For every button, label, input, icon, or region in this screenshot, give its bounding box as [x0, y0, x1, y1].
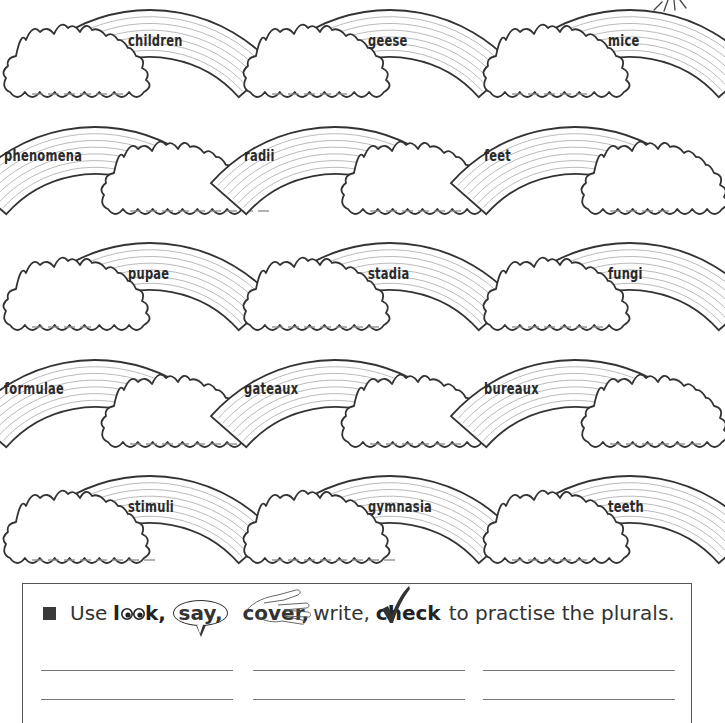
rainbow-cloud-left-icon [0, 466, 245, 581]
plural-card-gymnasia: gymnasia [240, 466, 485, 581]
svg-text:k,: k, [145, 603, 165, 625]
plural-word-label: fungi [608, 265, 643, 283]
answer-blank[interactable] [272, 78, 347, 96]
plural-card-stimuli: stimuli [0, 466, 245, 581]
plural-word-label: gateaux [244, 380, 298, 398]
eyes-icon: l k, [113, 603, 165, 625]
rainbow-cloud-left-icon [480, 0, 725, 115]
writing-line[interactable] [253, 670, 465, 671]
writing-line[interactable] [41, 699, 233, 700]
plural-card-pupae: pupae [0, 233, 245, 348]
answer-blank[interactable] [512, 544, 587, 562]
plural-word-label: stadia [368, 265, 409, 283]
rainbow-cloud-right-icon [0, 117, 245, 232]
answer-blank[interactable] [272, 544, 395, 562]
plural-card-gateaux: gateaux [240, 350, 485, 465]
rainbow-cloud-left-icon [480, 466, 725, 581]
plural-card-radii: radii [240, 117, 485, 232]
rainbow-cloud-left-icon [0, 233, 245, 348]
writing-line[interactable] [253, 699, 465, 700]
plural-card-formulae: formulae [0, 350, 245, 465]
rainbow-cloud-right-icon [480, 117, 725, 232]
answer-blank[interactable] [512, 311, 603, 329]
instruction-suffix: to practise the plurals. [449, 601, 675, 625]
answer-blank[interactable] [32, 544, 155, 562]
plural-word-label: teeth [608, 498, 644, 516]
plural-word-label: formulae [4, 380, 64, 398]
plural-card-teeth: teeth [480, 466, 725, 581]
instruction-text: Use look, l k, say, cover, [43, 600, 675, 626]
writing-line[interactable] [41, 670, 233, 671]
rainbow-cloud-right-icon [240, 117, 485, 232]
answer-blank[interactable] [370, 195, 461, 213]
answer-blank[interactable] [610, 195, 669, 213]
plural-card-feet: feet [480, 117, 725, 232]
answer-blank[interactable] [130, 428, 237, 446]
rainbow-cloud-left-icon [240, 466, 485, 581]
rainbow-cloud-left-icon [240, 0, 485, 115]
plural-card-geese: geese [240, 0, 485, 115]
look-word: look, l k, [113, 601, 168, 625]
plural-card-stadia: stadia [240, 233, 485, 348]
plural-word-label: radii [244, 147, 275, 165]
rainbow-cloud-right-icon [0, 350, 245, 465]
plural-word-label: phenomena [4, 147, 82, 165]
write-label: write, [313, 601, 370, 625]
rainbow-cloud-right-icon [240, 350, 485, 465]
plural-card-children: children [0, 0, 245, 115]
plural-card-mice: mice [480, 0, 725, 115]
writing-line[interactable] [483, 699, 675, 700]
speech-bubble-icon: say, [173, 600, 229, 626]
check-word: check [376, 601, 441, 625]
plural-card-phenomena: phenomena [0, 117, 245, 232]
answer-blank[interactable] [610, 428, 701, 446]
plurals-grid: childrengeesemicephenomenaradiifeetpupae… [0, 0, 723, 575]
plural-card-bureaux: bureaux [480, 350, 725, 465]
plural-word-label: geese [368, 32, 408, 50]
svg-text:l: l [113, 603, 120, 625]
plural-word-label: children [128, 32, 183, 50]
answer-blank[interactable] [32, 311, 91, 329]
plural-word-label: gymnasia [368, 498, 432, 516]
rainbow-cloud-left-icon [0, 0, 245, 115]
rainbow-cloud-right-icon [480, 350, 725, 465]
rainbow-cloud-left-icon [480, 233, 725, 348]
rainbow-cloud-left-icon [240, 233, 485, 348]
say-label: say, [179, 601, 223, 625]
plural-word-label: stimuli [128, 498, 174, 516]
writing-line[interactable] [483, 670, 675, 671]
answer-blank[interactable] [272, 311, 379, 329]
tick-icon [380, 585, 410, 625]
plural-word-label: pupae [128, 265, 169, 283]
answer-blank[interactable] [32, 78, 123, 96]
plural-word-label: mice [608, 32, 639, 50]
instruction-prefix: Use [70, 601, 107, 625]
plural-card-fungi: fungi [480, 233, 725, 348]
instruction-box: Use look, l k, say, cover, [22, 583, 692, 723]
square-bullet-icon [43, 607, 56, 620]
plural-word-label: bureaux [484, 380, 539, 398]
answer-blank[interactable] [512, 78, 587, 96]
hand-icon [244, 587, 316, 633]
cover-word: cover, [242, 601, 309, 625]
plural-word-label: feet [484, 147, 511, 165]
answer-blank[interactable] [370, 428, 461, 446]
